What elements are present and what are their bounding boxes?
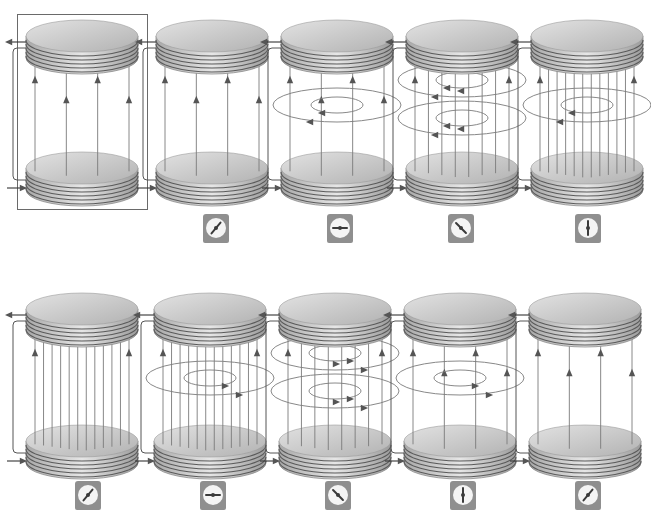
meter-dial <box>328 485 348 505</box>
magnetic-field-loop-inner <box>184 370 236 386</box>
external-wire <box>143 48 156 180</box>
meter-hub <box>86 493 90 497</box>
external-wire <box>268 48 281 180</box>
capacitor-panel-b2 <box>133 283 268 483</box>
field-arrow-up-icon <box>597 349 603 356</box>
lower-plate <box>26 152 138 206</box>
external-wire <box>516 321 529 453</box>
upper-plate <box>26 293 138 347</box>
magnetic-field-loop-inner <box>309 383 361 399</box>
field-arrow-up-icon <box>287 76 293 83</box>
capacitor-panel-b5 <box>508 283 643 483</box>
magnetic-field-loop-inner <box>436 110 488 126</box>
meter-dial <box>453 485 473 505</box>
current-out-arrow-icon <box>508 312 515 318</box>
field-arrow-up-icon <box>535 349 541 356</box>
external-wire <box>13 321 26 453</box>
external-wire <box>13 48 26 180</box>
current-out-arrow-icon <box>383 312 390 318</box>
capacitor-panel-t1 <box>5 10 140 210</box>
capacitor-panel-b4 <box>383 283 518 483</box>
meter-icon-b4 <box>450 481 476 510</box>
field-arrow-up-icon <box>349 76 355 83</box>
upper-plate <box>154 293 266 347</box>
meter-icon-b3 <box>325 481 351 510</box>
current-out-arrow-icon <box>135 39 142 45</box>
magnetic-field-loop-inner <box>434 370 486 386</box>
field-arrow-up-icon <box>32 76 38 83</box>
field-arrow-up-icon <box>566 369 572 376</box>
capacitor-panel-t3 <box>260 10 395 210</box>
current-out-arrow-icon <box>133 312 140 318</box>
lower-plate <box>531 152 643 206</box>
upper-plate <box>531 20 643 74</box>
field-arrow-up-icon <box>126 349 132 356</box>
field-arrow-up-icon <box>472 349 478 356</box>
magnetic-field-loop-inner <box>561 97 613 113</box>
upper-plate <box>404 293 516 347</box>
current-out-arrow-icon <box>5 312 12 318</box>
meter-icon-b2 <box>200 481 226 510</box>
current-out-arrow-icon <box>510 39 517 45</box>
meter-dial <box>578 485 598 505</box>
external-wire <box>141 321 154 453</box>
magnetic-field-loop-outer <box>523 88 651 122</box>
field-arrow-up-icon <box>162 76 168 83</box>
field-arrow-up-icon <box>410 349 416 356</box>
meter-icon-b1 <box>75 481 101 510</box>
capacitor-panel-t2 <box>135 10 270 210</box>
meter-icon-t3 <box>327 214 353 243</box>
meter-hub <box>586 226 590 230</box>
upper-plate <box>406 20 518 74</box>
current-out-arrow-icon <box>5 39 12 45</box>
upper-plate <box>281 20 393 74</box>
upper-plate <box>279 293 391 347</box>
field-arrow-up-icon <box>629 369 635 376</box>
meter-hub <box>459 226 463 230</box>
field-arrow-up-icon <box>160 349 166 356</box>
field-arrow-up-icon <box>537 76 543 83</box>
field-arrow-up-icon <box>32 349 38 356</box>
meter-hub <box>461 493 465 497</box>
field-arrow-up-icon <box>412 76 418 83</box>
current-out-arrow-icon <box>385 39 392 45</box>
meter-dial <box>206 218 226 238</box>
meter-hub <box>211 493 215 497</box>
capacitor-panel-b1 <box>5 283 140 483</box>
meter-dial <box>578 218 598 238</box>
lower-plate <box>281 152 393 206</box>
meter-icon-t4 <box>448 214 474 243</box>
field-arrow-up-icon <box>631 76 637 83</box>
meter-dial <box>330 218 350 238</box>
magnetic-field-loop-outer <box>146 361 274 395</box>
loop-arrow-icon <box>457 88 464 94</box>
meter-dial <box>203 485 223 505</box>
capacitor-panel-t4 <box>385 10 520 210</box>
lower-plate <box>156 152 268 206</box>
meter-icon-b5 <box>575 481 601 510</box>
meter-hub <box>336 493 340 497</box>
meter-dial <box>451 218 471 238</box>
field-arrow-up-icon <box>94 76 100 83</box>
upper-plate <box>156 20 268 74</box>
magnetic-field-loop-outer <box>273 88 401 122</box>
loop-arrow-icon <box>333 361 340 367</box>
field-arrow-up-icon <box>193 96 199 103</box>
loop-arrow-icon <box>333 399 340 405</box>
meter-icon-t5 <box>575 214 601 243</box>
lower-plate <box>406 152 518 206</box>
lower-plate <box>154 425 266 479</box>
meter-icon-t2 <box>203 214 229 243</box>
current-out-arrow-icon <box>258 312 265 318</box>
meter-hub <box>214 226 218 230</box>
loop-arrow-icon <box>457 126 464 132</box>
meter-dial <box>78 485 98 505</box>
field-arrow-up-icon <box>224 76 230 83</box>
field-arrow-up-icon <box>63 96 69 103</box>
lower-plate <box>26 425 138 479</box>
current-out-arrow-icon <box>260 39 267 45</box>
lower-plate <box>529 425 641 479</box>
meter-hub <box>586 493 590 497</box>
lower-plate <box>279 425 391 479</box>
magnetic-field-loop-inner <box>311 97 363 113</box>
